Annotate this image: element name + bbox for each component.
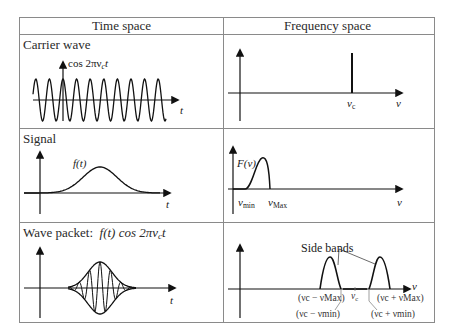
wave-packet-time-plot — [24, 248, 175, 318]
signal-time-plot — [24, 152, 170, 214]
spectrum-curve-label: F(ν) — [237, 157, 256, 169]
signal-curve-label: f(t) — [73, 157, 86, 169]
nu-min-label: νmin — [238, 196, 255, 210]
carrier-freq-axis-label: ν — [396, 97, 401, 109]
carrier-time-axis-label: t — [180, 104, 183, 116]
nu-c-sub: c — [352, 102, 355, 111]
packet-time-axis-label: t — [170, 294, 173, 306]
header-time-space: Time space — [92, 18, 151, 34]
tick-label-upper-max: (νc + νMax) — [377, 293, 424, 303]
tick-label-lower-min: (νc − νmin) — [296, 309, 340, 319]
nu-c-center-sub: c — [355, 295, 358, 302]
packet-freq-axis-label: ν — [412, 280, 417, 292]
row-label-signal: Signal — [23, 131, 56, 147]
carrier-wave-freq-plot — [228, 50, 402, 121]
tick-label-upper-min: (νc + νmin) — [371, 309, 415, 319]
nu-max-label: νMax — [268, 196, 287, 210]
signal-time-axis-label: t — [166, 198, 169, 210]
header-frequency-space: Frequency space — [284, 18, 371, 34]
carrier-curve-label: cos 2πνct — [68, 57, 108, 71]
carrier-formula-tail: t — [105, 57, 108, 69]
wave-packet-formula: f(t) cos 2πν — [100, 225, 159, 240]
nu-min-sub: min — [243, 201, 255, 210]
tick-label-lower-max: (νc − νMax) — [298, 293, 345, 303]
carrier-freq-peak-label: νc — [347, 97, 355, 111]
signal-freq-axis-label: ν — [397, 196, 402, 208]
nu-max-sub: Max — [273, 201, 287, 210]
carrier-formula: cos 2πν — [68, 57, 101, 69]
side-bands-annotation: Side bands — [301, 241, 353, 256]
row-label-carrier-wave: Carrier wave — [23, 37, 91, 53]
row-label-wave-packet: Wave packet: f(t) cos 2πνct — [23, 225, 166, 241]
nu-c-center-label: νc — [351, 291, 358, 302]
wave-packet-formula-tail: t — [162, 225, 166, 240]
wave-packet-text: Wave packet: — [23, 225, 93, 240]
